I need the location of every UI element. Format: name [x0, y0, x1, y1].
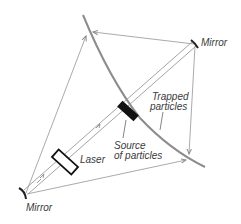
- source-leader: [123, 120, 126, 138]
- mirror-bottom-label: Mirror: [26, 203, 52, 213]
- beam-main-a: [24, 42, 192, 190]
- diagram-canvas: [0, 0, 241, 224]
- trapped-particles-label-2: particles: [150, 102, 187, 112]
- beam-top-left: [93, 32, 194, 44]
- beam-arrow-3: [37, 179, 41, 183]
- source-label-2: of particles: [114, 151, 162, 161]
- laser-label: Laser: [80, 155, 105, 165]
- beam-main-b: [28, 46, 196, 194]
- mirror-top-label: Mirror: [201, 38, 227, 48]
- beam-top-down: [189, 46, 195, 154]
- beam-left-right: [27, 160, 186, 194]
- trapped-leader: [160, 112, 163, 130]
